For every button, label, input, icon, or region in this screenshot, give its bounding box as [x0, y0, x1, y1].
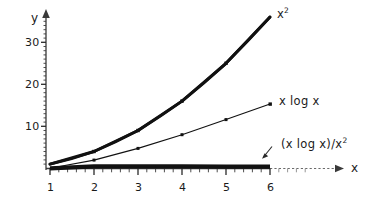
x-tick-label-6: 6 [267, 182, 274, 193]
series-xlogx-markers [93, 102, 272, 161]
series-label-ratio-exponent: 2 [342, 136, 347, 145]
series-label-ratio-main: (x log x)/x [281, 137, 342, 151]
series-label-xsquared-exponent: 2 [284, 6, 289, 15]
y-tick-label-20: 20 [25, 79, 39, 90]
series-xlogx-curve [50, 102, 272, 168]
x-tick-label-4: 4 [179, 182, 186, 193]
x-tick-label-5: 5 [223, 182, 230, 193]
x-tick-label-1: 1 [47, 182, 54, 193]
y-axis-label: y [31, 12, 38, 24]
x-tick-label-3: 3 [135, 182, 142, 193]
chart-figure: y x 30 20 10 1 2 3 4 5 6 x2 x log x (x l… [0, 0, 368, 206]
series-ratio-curve [50, 166, 270, 168]
series-label-xlogx: x log x [279, 96, 320, 108]
x-major-ticks [50, 169, 270, 176]
series-label-ratio: (x log x)/x2 [281, 137, 348, 150]
series-label-xsquared: x2 [277, 7, 289, 20]
x-axis-label: x [351, 162, 358, 174]
ratio-annotation-arrow-icon [262, 147, 272, 159]
x-tick-label-2: 2 [91, 182, 98, 193]
y-axis-arrow-icon [42, 9, 50, 18]
y-tick-label-10: 10 [25, 121, 39, 132]
y-tick-label-30: 30 [25, 37, 39, 48]
x-axis-arrow-icon [335, 165, 344, 173]
series-xsquared-markers [92, 62, 227, 154]
